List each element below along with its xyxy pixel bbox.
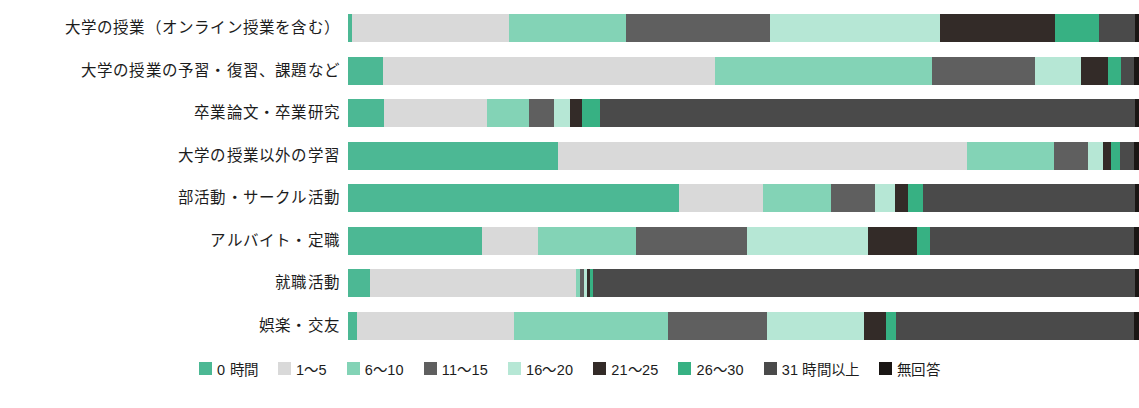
- legend-label: 6〜10: [365, 358, 404, 379]
- legend-label: 無回答: [897, 358, 940, 379]
- bar-segment: [348, 227, 482, 255]
- bar-row: 部活動・サークル活動: [0, 184, 1139, 212]
- bar-segment: [668, 312, 768, 340]
- bar-segment: [348, 184, 679, 212]
- bar-segment: [348, 142, 558, 170]
- bar-segment: [352, 14, 509, 42]
- legend-item: 無回答: [879, 358, 940, 379]
- plot-area: 大学の授業（オンライン授業を含む）大学の授業の予習・復習、課題など卒業論文・卒業…: [0, 14, 1139, 344]
- bar-row: 大学の授業の予習・復習、課題など: [0, 57, 1139, 85]
- legend-item: 31 時間以上: [764, 358, 860, 379]
- legend-item: 1〜5: [278, 358, 327, 379]
- bar-segment: [895, 184, 908, 212]
- bar-segment: [967, 142, 1053, 170]
- legend-swatch-icon: [347, 362, 360, 375]
- legend-label: 26〜30: [696, 358, 743, 379]
- bar-track: [348, 269, 1139, 297]
- category-label: 就職活動: [0, 274, 348, 291]
- legend-item: 21〜25: [593, 358, 658, 379]
- bar-segment: [864, 312, 886, 340]
- bar-segment: [554, 99, 570, 127]
- bar-segment: [1135, 14, 1139, 42]
- bar-segment: [908, 184, 923, 212]
- bar-segment: [896, 312, 1134, 340]
- bar-segment: [482, 227, 538, 255]
- bar-segment: [932, 57, 1035, 85]
- bar-segment: [509, 14, 626, 42]
- bar-track: [348, 99, 1139, 127]
- bar-segment: [831, 184, 875, 212]
- bar-segment: [875, 184, 896, 212]
- bar-segment: [1134, 312, 1139, 340]
- bar-segment: [582, 99, 600, 127]
- bar-segment: [1035, 57, 1082, 85]
- bar-segment: [763, 184, 830, 212]
- bar-segment: [383, 57, 715, 85]
- bar-segment: [538, 227, 636, 255]
- bar-segment: [1103, 142, 1111, 170]
- legend-label: 21〜25: [611, 358, 658, 379]
- bar-segment: [558, 142, 967, 170]
- bar-segment: [1099, 14, 1135, 42]
- bar-segment: [715, 57, 932, 85]
- bar-row: 大学の授業（オンライン授業を含む）: [0, 14, 1139, 42]
- legend-label: 0 時間: [217, 358, 258, 379]
- legend-label: 31 時間以上: [782, 358, 860, 379]
- legend-swatch-icon: [424, 362, 437, 375]
- bar-segment: [1111, 142, 1120, 170]
- legend-item: 6〜10: [347, 358, 404, 379]
- bar-segment: [1135, 269, 1139, 297]
- bar-segment: [593, 269, 1135, 297]
- legend-item: 26〜30: [678, 358, 743, 379]
- bar-segment: [1054, 142, 1089, 170]
- legend-swatch-icon: [879, 362, 892, 375]
- category-label: アルバイト・定職: [0, 232, 348, 249]
- bar-segment: [626, 14, 769, 42]
- bar-row: 娯楽・交友: [0, 312, 1139, 340]
- bar-segment: [1120, 142, 1134, 170]
- bar-segment: [384, 99, 488, 127]
- legend-swatch-icon: [278, 362, 291, 375]
- category-label: 大学の授業の予習・復習、課題など: [0, 62, 348, 79]
- bar-track: [348, 312, 1139, 340]
- legend-item: 16〜20: [508, 358, 573, 379]
- chart-legend: 0 時間1〜56〜1011〜1516〜2021〜2526〜3031 時間以上無回…: [0, 358, 1139, 379]
- stacked-bar-chart: 大学の授業（オンライン授業を含む）大学の授業の予習・復習、課題など卒業論文・卒業…: [0, 0, 1139, 408]
- bar-row: 就職活動: [0, 269, 1139, 297]
- bar-segment: [1108, 57, 1121, 85]
- bar-segment: [886, 312, 896, 340]
- category-label: 娯楽・交友: [0, 317, 348, 334]
- bar-track: [348, 57, 1139, 85]
- bar-segment: [348, 99, 384, 127]
- bar-segment: [1055, 14, 1099, 42]
- legend-swatch-icon: [593, 362, 606, 375]
- bar-segment: [767, 312, 864, 340]
- bar-segment: [370, 269, 576, 297]
- bar-segment: [1134, 227, 1139, 255]
- legend-swatch-icon: [508, 362, 521, 375]
- bar-segment: [747, 227, 867, 255]
- bar-segment: [1081, 57, 1108, 85]
- legend-item: 0 時間: [199, 358, 258, 379]
- bar-segment: [930, 227, 1134, 255]
- bar-segment: [917, 227, 930, 255]
- bar-segment: [487, 99, 529, 127]
- legend-label: 11〜15: [442, 358, 488, 379]
- bar-segment: [1121, 57, 1134, 85]
- legend-swatch-icon: [678, 362, 691, 375]
- legend-swatch-icon: [199, 362, 212, 375]
- category-label: 部活動・サークル活動: [0, 189, 348, 206]
- bar-segment: [357, 312, 514, 340]
- bar-track: [348, 227, 1139, 255]
- bar-segment: [348, 312, 357, 340]
- bar-segment: [348, 57, 383, 85]
- bar-segment: [1088, 142, 1103, 170]
- category-label: 大学の授業（オンライン授業を含む）: [0, 19, 348, 36]
- bar-segment: [529, 99, 554, 127]
- legend-swatch-icon: [764, 362, 777, 375]
- bar-segment: [514, 312, 667, 340]
- bar-segment: [679, 184, 763, 212]
- bar-segment: [1134, 57, 1139, 85]
- bar-track: [348, 142, 1139, 170]
- bar-segment: [923, 184, 1135, 212]
